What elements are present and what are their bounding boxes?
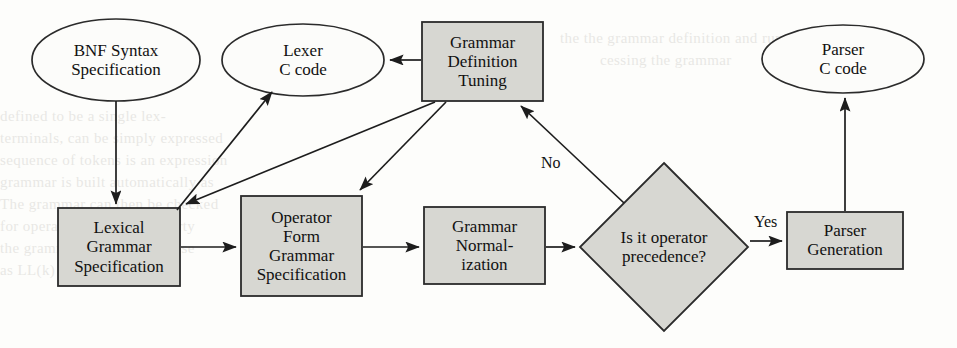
flowchart-svg bbox=[0, 0, 957, 348]
node-parser-generation[interactable] bbox=[787, 212, 903, 269]
edge-label-yes-label: Yes bbox=[754, 214, 777, 230]
diagram-canvas: the the grammar definition and run thece… bbox=[0, 0, 957, 348]
edge-label-no-label: No bbox=[541, 155, 561, 171]
node-grammar-normalization[interactable] bbox=[424, 207, 545, 284]
node-bnf-syntax-specification[interactable] bbox=[32, 19, 200, 101]
node-parser-c-code[interactable] bbox=[762, 25, 924, 93]
edge-lexical-grammar-to-lexer bbox=[177, 92, 272, 210]
node-lexer-c-code[interactable] bbox=[222, 24, 384, 96]
node-grammar-definition-tuning[interactable] bbox=[422, 22, 543, 101]
node-is-it-operator-precedence-decision[interactable] bbox=[580, 163, 748, 331]
node-operator-form-grammar-specification[interactable] bbox=[241, 196, 362, 296]
edge-decision-no-to-gdt bbox=[521, 106, 624, 203]
node-lexical-grammar-specification[interactable] bbox=[58, 208, 180, 286]
